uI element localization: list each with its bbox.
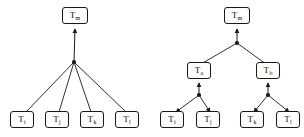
node-label-base: T: [264, 65, 270, 75]
node-left-root-tm: Tm: [62, 7, 88, 24]
node-label-subscript: m: [238, 15, 243, 21]
node-right-intermediate-ta: Ta: [187, 62, 211, 79]
left-diagram-edges: [26, 29, 126, 112]
edge-right-junction-to-ta: [201, 43, 237, 64]
node-right-leaf-tk: Tk: [240, 111, 264, 128]
node-left-leaf-tk: Tk: [80, 111, 104, 128]
node-label-base: T: [123, 114, 129, 124]
node-right-intermediate-tb: Tb: [256, 62, 280, 79]
node-label-base: T: [18, 114, 24, 124]
transaction-tree-figure: Tm Ti Tj Tk Tl Tm Ta Tb: [0, 0, 304, 137]
edge-left-junction-to-root: [74, 29, 75, 62]
node-label-base: T: [248, 114, 254, 124]
node-label-base: T: [195, 65, 201, 75]
node-label-base: T: [232, 10, 238, 20]
junction-dot-b: [266, 93, 270, 97]
node-label-base: T: [53, 114, 59, 124]
node-label-subscript: k: [253, 119, 256, 125]
node-label-subscript: b: [269, 70, 272, 76]
node-left-leaf-tj: Tj: [45, 111, 69, 128]
node-label-subscript: a: [201, 70, 204, 76]
node-right-leaf-tj: Tj: [196, 111, 220, 128]
edge-right-junction-to-tb: [237, 43, 266, 64]
junction-dot-left: [72, 60, 76, 64]
edge-junction-a-to-ti: [176, 95, 199, 112]
edge-junction-b-to-tk: [254, 95, 268, 112]
node-label-base: T: [88, 114, 94, 124]
node-left-leaf-ti: Ti: [10, 111, 34, 128]
node-right-leaf-tl: Tl: [276, 111, 300, 128]
node-label-subscript: i: [24, 119, 26, 125]
node-label-subscript: i: [174, 119, 176, 125]
node-label-base: T: [168, 114, 174, 124]
edge-left-junction-to-tl: [74, 62, 126, 112]
edge-junction-a-to-tj: [199, 95, 210, 112]
edge-junction-b-to-tl: [268, 95, 289, 112]
node-label-subscript: l: [290, 119, 292, 125]
edge-left-junction-to-tk: [74, 62, 91, 112]
node-right-root-tm: Tm: [224, 7, 250, 24]
node-label-subscript: j: [210, 119, 212, 125]
node-label-base: T: [204, 114, 210, 124]
node-label-subscript: m: [76, 15, 81, 21]
node-label-subscript: l: [129, 119, 131, 125]
node-label-subscript: k: [93, 119, 96, 125]
node-left-leaf-tl: Tl: [115, 111, 139, 128]
junction-dot-right-top: [235, 41, 239, 45]
junction-dot-a: [197, 93, 201, 97]
node-label-base: T: [284, 114, 290, 124]
node-right-leaf-ti: Ti: [160, 111, 184, 128]
node-label-base: T: [70, 10, 76, 20]
node-label-subscript: j: [59, 119, 61, 125]
